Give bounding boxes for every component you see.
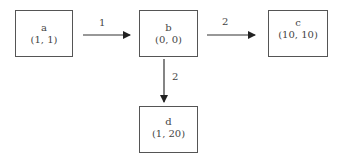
node-b-coords: (0, 0) (155, 34, 182, 46)
node-c-coords: (10, 10) (278, 29, 318, 41)
node-a: a (1, 1) (15, 10, 73, 57)
edge-a-b-label: 1 (99, 17, 105, 28)
node-b: b (0, 0) (139, 10, 198, 57)
node-b-name: b (165, 22, 171, 34)
node-d-coords: (1, 20) (152, 128, 185, 140)
node-c-name: c (295, 17, 301, 29)
node-d: d (1, 20) (139, 106, 198, 153)
node-d-name: d (165, 116, 171, 128)
node-a-name: a (41, 22, 47, 34)
node-c: c (10, 10) (268, 10, 328, 57)
node-a-coords: (1, 1) (31, 34, 58, 46)
edge-b-d-label: 2 (172, 71, 178, 82)
edge-b-c-label: 2 (222, 16, 228, 27)
